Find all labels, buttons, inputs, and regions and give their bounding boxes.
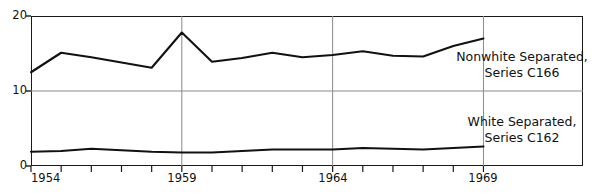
x-axis-tick-label-1969: 1969 <box>468 173 497 185</box>
y-axis-tick-label-0: 0 <box>0 160 27 172</box>
y-axis-tick-label-10: 10 <box>0 85 27 97</box>
x-axis-tick-label-1954: 1954 <box>31 173 60 185</box>
y-axis-tick-label-20: 20 <box>0 10 27 22</box>
x-axis-tick-label-1959: 1959 <box>167 173 196 185</box>
series-annotation-white-line2: Series C162 <box>452 130 592 146</box>
x-axis-tick-label-1964: 1964 <box>318 173 347 185</box>
series-annotation-white-separated: White Separated, Series C162 <box>452 114 592 145</box>
series-annotation-nonwhite-separated: Nonwhite Separated, Series C166 <box>452 49 592 80</box>
series-annotation-white-line1: White Separated, <box>452 114 592 130</box>
series-annotation-nonwhite-line2: Series C166 <box>452 65 592 81</box>
series-annotation-nonwhite-line1: Nonwhite Separated, <box>452 49 592 65</box>
chart-figure: 20 10 0 1954 1959 1964 1969 Nonwhite Sep… <box>0 0 596 194</box>
